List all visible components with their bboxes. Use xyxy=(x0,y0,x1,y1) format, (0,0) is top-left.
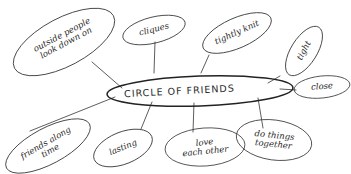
mind-map-diagram: CIRCLE OF FRIENDS outside people look do… xyxy=(0,0,351,174)
